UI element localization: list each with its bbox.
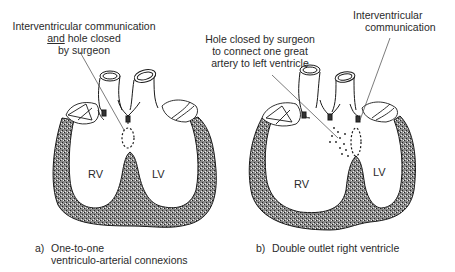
heart-a [53, 52, 216, 227]
annotation-b-vsd-line2: communication [353, 21, 436, 33]
label-lv-a: LV [152, 168, 165, 180]
mitral-valve-b [362, 102, 398, 122]
myocardium-b [249, 116, 415, 230]
leaflets-b [302, 100, 360, 122]
myocardium-a [53, 117, 216, 227]
label-rv-b: RV [294, 178, 309, 190]
annotation-a-line2-rest: hole closed [65, 32, 121, 44]
annotation-a-line1: Interventricular communication [4, 20, 164, 32]
annotation-a-and: and [47, 32, 65, 44]
caption-a-line2: ventriculo-arterial connexions [51, 254, 188, 266]
annotation-vsd-b: Interventricular communication [353, 9, 436, 33]
label-rv-a: RV [88, 168, 103, 180]
caption-a: a)One-to-one [35, 242, 104, 254]
surgical-hole-dots-b [329, 127, 349, 157]
annotation-a-line3: by surgeon [4, 44, 164, 56]
annotation-b-hole-line1: Hole closed by surgeon [190, 33, 330, 45]
great-artery-1-b [299, 65, 320, 112]
caption-a-letter: a) [35, 242, 51, 254]
leaflets-a [98, 100, 140, 124]
annotation-hole-b: Hole closed by surgeon to connect one gr… [190, 33, 330, 69]
annotation-a-line2: and hole closed [4, 32, 164, 44]
annotation-b-hole-line2: to connect one great [190, 45, 330, 57]
tricuspid-valve-b [262, 103, 301, 126]
annotation-b-vsd-line1: Interventricular [353, 9, 436, 21]
vsd-hole-a [122, 128, 134, 148]
annotation-b-hole-line3: artery to left ventricle [190, 57, 330, 69]
annotation-vsd-hole-a: Interventricular communication and hole … [4, 20, 164, 56]
pulmonary-artery-a [99, 71, 123, 114]
vsd-hole-b [351, 128, 361, 156]
caption-b-letter: b) [256, 242, 272, 254]
great-artery-2-b [332, 70, 356, 112]
caption-b: b)Double outlet right ventricle [256, 242, 399, 254]
mitral-valve-a [162, 100, 198, 122]
caption-b-line1: Double outlet right ventricle [272, 242, 399, 254]
label-lv-b: LV [373, 166, 386, 178]
aorta-a [130, 67, 158, 110]
caption-a-line1: One-to-one [51, 242, 104, 254]
